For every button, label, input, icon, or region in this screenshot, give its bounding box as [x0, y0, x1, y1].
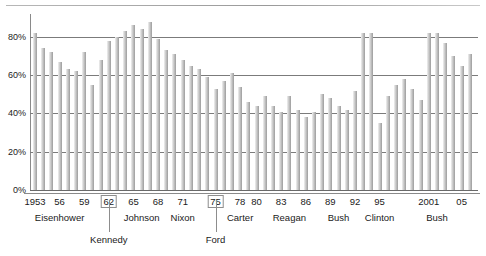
bar	[156, 39, 160, 190]
bar	[230, 73, 234, 190]
x-tick-label-95: 95	[374, 196, 385, 207]
group-label-ford-4: Ford	[206, 234, 226, 245]
x-tick-label-1953: 1953	[24, 196, 45, 207]
x-tick-label-71: 71	[177, 196, 188, 207]
bar	[41, 48, 45, 190]
x-tick-label-92: 92	[350, 196, 361, 207]
bar	[123, 31, 127, 190]
group-label-bush-9: Bush	[426, 212, 448, 223]
bar-series	[31, 14, 478, 190]
y-tick-label: 60%	[8, 71, 26, 80]
group-label-clinton-8: Clinton	[365, 212, 395, 223]
chart-figure: 0%20%40%60%80% 1953565962656871757880838…	[0, 0, 486, 256]
x-tick-label-86: 86	[300, 196, 311, 207]
x-tick-label-89: 89	[325, 196, 336, 207]
top-divider-rule	[6, 5, 480, 6]
x-tick-label-56: 56	[54, 196, 65, 207]
bar	[271, 106, 275, 190]
group-label-reagan-6: Reagan	[273, 212, 306, 223]
bar	[181, 60, 185, 190]
bar	[402, 79, 406, 190]
x-tick-label-68: 68	[153, 196, 164, 207]
bar	[460, 66, 464, 190]
bar	[148, 22, 152, 190]
bar	[90, 85, 94, 190]
bar	[394, 85, 398, 190]
bar	[361, 33, 365, 190]
bar	[296, 110, 300, 190]
bar	[410, 89, 414, 190]
x-tick-label-78: 78	[235, 196, 246, 207]
bar	[353, 91, 357, 190]
bar	[140, 29, 144, 190]
x-tick-label-59: 59	[79, 196, 90, 207]
bar	[66, 69, 70, 190]
group-label-nixon-3: Nixon	[171, 212, 195, 223]
bar	[99, 60, 103, 190]
bar	[427, 33, 431, 190]
group-label-kennedy-1: Kennedy	[90, 234, 128, 245]
plot-area: 0%20%40%60%80%	[30, 14, 478, 190]
x-tick-label-65: 65	[128, 196, 139, 207]
bar	[287, 96, 291, 190]
bar	[435, 33, 439, 190]
bar	[345, 110, 349, 190]
bar	[82, 52, 86, 190]
bar	[197, 69, 201, 190]
bar	[131, 25, 135, 190]
group-leader-line	[109, 200, 110, 232]
x-axis-tick-labels: 19535659626568717578808386899295200105	[0, 196, 486, 210]
bar	[58, 62, 62, 190]
x-tick-label-2001: 2001	[418, 196, 439, 207]
bar	[468, 54, 472, 190]
bar	[172, 54, 176, 190]
bar	[369, 33, 373, 190]
bar	[107, 41, 111, 190]
bar	[443, 43, 447, 190]
gridline-0	[30, 190, 478, 191]
bar	[33, 33, 37, 190]
bar	[214, 89, 218, 190]
y-tick-label: 40%	[8, 109, 26, 118]
y-tick-label: 20%	[8, 147, 26, 156]
bar	[189, 66, 193, 190]
bar	[205, 77, 209, 190]
bar	[246, 102, 250, 190]
administration-group-labels: EisenhowerKennedyJohnsonNixonFordCarterR…	[0, 212, 486, 252]
x-tick-label-80: 80	[251, 196, 262, 207]
x-tick-label-05: 05	[456, 196, 467, 207]
bar	[164, 50, 168, 190]
group-label-johnson-2: Johnson	[124, 212, 160, 223]
bar	[328, 98, 332, 190]
bar	[255, 106, 259, 190]
bar	[49, 52, 53, 190]
x-tick-label-83: 83	[276, 196, 287, 207]
group-label-carter-5: Carter	[227, 212, 253, 223]
y-tick-label: 80%	[8, 32, 26, 41]
bar	[337, 106, 341, 190]
bar	[74, 71, 78, 190]
bar	[115, 37, 119, 190]
group-label-bush-7: Bush	[328, 212, 350, 223]
bar	[320, 94, 324, 190]
bar	[222, 81, 226, 190]
bar	[238, 87, 242, 190]
bar	[419, 100, 423, 190]
bar	[386, 96, 390, 190]
bar	[304, 117, 308, 190]
x-axis-spine	[24, 193, 480, 194]
bar	[312, 112, 316, 190]
bar	[378, 123, 382, 190]
bar	[263, 96, 267, 190]
group-label-eisenhower-0: Eisenhower	[35, 212, 85, 223]
bar	[279, 112, 283, 190]
bar	[451, 56, 455, 190]
group-leader-line	[216, 200, 217, 232]
